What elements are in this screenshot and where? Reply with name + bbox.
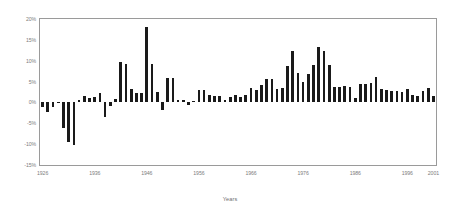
- bar: [203, 90, 206, 103]
- bar: [88, 98, 91, 103]
- bar: [370, 83, 373, 102]
- bar: [297, 73, 300, 102]
- bar: [432, 96, 435, 103]
- bar: [385, 90, 388, 102]
- y-axis-tick-label: 0%: [6, 99, 36, 105]
- y-axis-tick-label: 5%: [6, 79, 36, 85]
- bar: [354, 98, 357, 103]
- bar: [109, 102, 112, 105]
- bar: [130, 89, 133, 102]
- bar: [349, 87, 352, 103]
- x-axis-tick-label: 1946: [141, 170, 152, 177]
- bar: [213, 96, 216, 102]
- bar: [255, 90, 258, 103]
- bar: [338, 87, 341, 103]
- bar: [317, 47, 320, 102]
- bar: [198, 90, 201, 102]
- bar: [276, 89, 279, 103]
- bar: [364, 84, 367, 102]
- bar: [286, 66, 289, 102]
- x-axis-tick-label: 1966: [245, 170, 256, 177]
- bar: [250, 88, 253, 102]
- bar: [46, 102, 49, 112]
- x-axis-tick-label: 1976: [298, 170, 309, 177]
- bar: [166, 78, 169, 102]
- y-axis-tick-label: -10%: [6, 141, 36, 147]
- y-axis-tick-label: -15%: [6, 162, 36, 168]
- bar: [422, 91, 425, 102]
- bar: [359, 84, 362, 102]
- x-axis: 192619361946195619661976198619962001: [0, 170, 460, 182]
- bar: [281, 88, 284, 102]
- bar: [57, 102, 60, 103]
- bar: [119, 62, 122, 102]
- bar-series: [40, 19, 436, 165]
- bar: [125, 64, 128, 102]
- bar: [307, 74, 310, 102]
- chart-figure: 20%15%10%5%0%-5%-10%-15% 192619361946195…: [0, 0, 460, 216]
- bar: [114, 99, 117, 103]
- bar: [229, 97, 232, 102]
- bar: [406, 89, 409, 103]
- bar: [302, 82, 305, 102]
- bar: [328, 65, 331, 102]
- bar: [401, 92, 404, 102]
- bar: [239, 97, 242, 102]
- y-axis-tick-label: 20%: [6, 16, 36, 22]
- bar: [375, 77, 378, 102]
- bar: [177, 100, 180, 103]
- bar: [192, 101, 195, 103]
- bar: [62, 102, 65, 127]
- bar: [172, 78, 175, 103]
- bar: [182, 100, 185, 103]
- y-axis-tick-label: 10%: [6, 58, 36, 64]
- bar: [411, 95, 414, 102]
- x-axis-tick-label: 1996: [402, 170, 413, 177]
- bar: [41, 102, 44, 107]
- bar: [145, 27, 148, 103]
- bar: [396, 91, 399, 102]
- bar: [265, 79, 268, 102]
- bar: [343, 86, 346, 103]
- bar: [427, 88, 430, 102]
- bar: [244, 95, 247, 103]
- bar: [161, 102, 164, 110]
- bar: [271, 79, 274, 102]
- bar: [99, 93, 102, 102]
- bar: [234, 95, 237, 102]
- y-axis-tick-label: -5%: [6, 120, 36, 126]
- bar: [291, 51, 294, 102]
- bar: [78, 100, 81, 103]
- bar: [333, 87, 336, 103]
- bar: [67, 102, 70, 142]
- bar: [93, 97, 96, 102]
- x-axis-title: Years: [0, 196, 460, 202]
- x-axis-tick-label: 1926: [37, 170, 48, 177]
- bar: [390, 91, 393, 102]
- bar: [312, 65, 315, 103]
- bar: [218, 96, 221, 102]
- x-axis-tick-label: 2001: [428, 170, 439, 177]
- bar: [156, 92, 159, 103]
- y-axis-tick-label: 15%: [6, 37, 36, 43]
- bar: [323, 51, 326, 103]
- bar: [140, 93, 143, 103]
- bar: [83, 96, 86, 103]
- bar: [151, 64, 154, 102]
- bar: [73, 102, 76, 145]
- bar: [260, 85, 263, 103]
- bar: [380, 89, 383, 102]
- y-axis: 20%15%10%5%0%-5%-10%-15%: [0, 0, 36, 216]
- bar: [52, 102, 55, 107]
- bar: [416, 96, 419, 103]
- bar: [187, 102, 190, 104]
- x-axis-tick-label: 1956: [193, 170, 204, 177]
- bar: [135, 93, 138, 103]
- x-axis-tick-label: 1936: [89, 170, 100, 177]
- bar: [104, 102, 107, 117]
- bar: [224, 100, 227, 103]
- x-axis-tick-label: 1986: [350, 170, 361, 177]
- bar: [208, 95, 211, 103]
